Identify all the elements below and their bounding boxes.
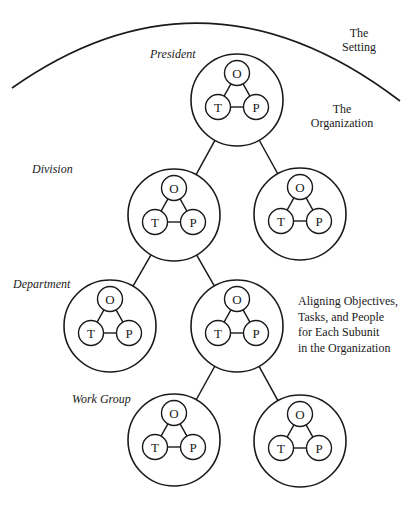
setting-label-line-1: The [336,26,382,40]
people-letter: P [315,214,322,229]
organization-label: The Organization [306,102,378,130]
edge-department-right-to-workgroup-left [196,366,215,399]
people-letter: P [189,215,196,230]
edge-division-left-to-department-right [197,255,215,286]
objectives-letter: O [232,66,241,81]
tasks-letter: T [87,326,95,341]
objectives-letter: O [295,407,304,422]
objectives-letter: O [105,292,114,307]
level-label-work-group: Work Group [72,392,131,406]
edge-department-right-to-workgroup-right [259,366,278,400]
tasks-letter: T [214,100,222,115]
organization-label-line-2: Organization [306,116,378,130]
tasks-letter: T [277,214,285,229]
objectives-letter: O [232,292,241,307]
alignment-note-line-3: for Each Subunit [298,325,398,341]
node-department-right: OTP [191,280,283,372]
tasks-letter: T [151,440,159,455]
level-label-department: Department [13,277,70,291]
alignment-note-line-1: Aligning Objectives, [298,294,398,310]
people-letter: P [125,326,132,341]
people-letter: P [315,441,322,456]
alignment-note: Aligning Objectives, Tasks, and People f… [298,294,398,356]
tasks-letter: T [277,441,285,456]
level-label-president: President [150,47,196,61]
edge-president-to-division-right [259,140,278,173]
alignment-note-line-4: in the Organization [298,341,398,357]
people-letter: P [252,326,259,341]
setting-label: The Setting [336,26,382,54]
objectives-letter: O [169,181,178,196]
node-workgroup-right: OTP [254,395,346,487]
node-division-left: OTP [128,169,220,261]
people-letter: P [252,100,259,115]
organization-label-line-1: The [306,102,378,116]
edge-president-to-division-left [196,140,215,174]
node-workgroup-left: OTP [128,394,220,486]
level-label-division: Division [32,162,73,176]
edge-division-left-to-department-left [133,255,151,286]
node-president: OTP [191,54,283,146]
objectives-letter: O [169,406,178,421]
tasks-letter: T [214,326,222,341]
setting-label-line-2: Setting [336,40,382,54]
alignment-note-line-2: Tasks, and People [298,310,398,326]
people-letter: P [189,440,196,455]
tasks-letter: T [151,215,159,230]
organization-alignment-diagram: OTPOTPOTPOTPOTPOTPOTP [0,0,414,509]
objectives-letter: O [295,180,304,195]
node-division-right: OTP [254,168,346,260]
node-department-left: OTP [64,280,156,372]
